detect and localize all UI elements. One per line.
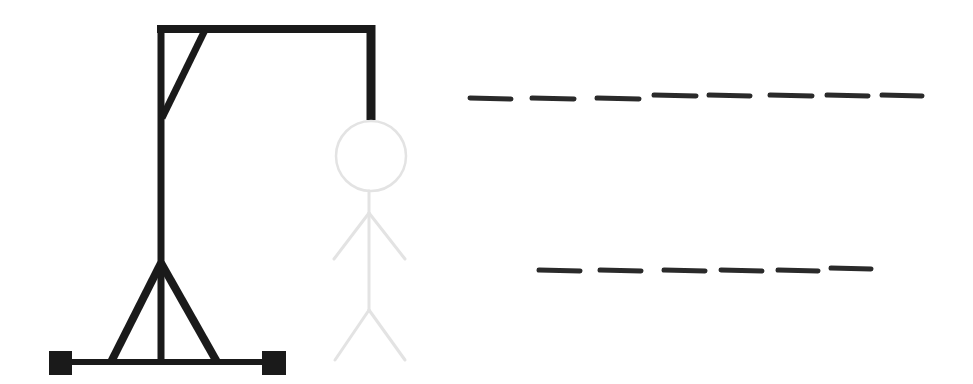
letter-blank (597, 98, 639, 99)
word-line-2 (539, 268, 871, 271)
letter-blank (664, 270, 705, 271)
letter-blank (654, 95, 696, 96)
figure-right-arm (369, 213, 405, 259)
letter-blank (882, 95, 922, 96)
gallows-right-leg-brace (161, 263, 217, 362)
letter-blank (539, 270, 580, 271)
letter-blank (827, 95, 868, 96)
word-line-1 (470, 95, 922, 99)
letter-blank (831, 268, 871, 269)
hangman-canvas (0, 0, 973, 384)
gallows (49, 25, 375, 375)
letter-blank (770, 95, 812, 96)
hangman-board (0, 0, 973, 384)
letter-blank (721, 270, 762, 271)
gallows-left-foot (49, 351, 72, 375)
figure-left-leg (335, 310, 369, 360)
gallows-right-foot (262, 351, 286, 375)
hangman-figure (334, 121, 406, 360)
figure-left-arm (334, 213, 369, 259)
letter-blank (532, 98, 574, 99)
gallows-corner-brace (162, 30, 205, 118)
figure-right-leg (369, 310, 405, 360)
figure-head (336, 121, 406, 191)
letter-blank (709, 95, 750, 96)
letter-blank (778, 270, 818, 271)
letter-blank (600, 270, 641, 271)
letter-blank (470, 98, 511, 99)
gallows-left-leg-brace (111, 263, 161, 362)
